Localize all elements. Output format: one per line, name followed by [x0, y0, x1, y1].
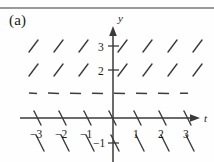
y-axis-label: y	[117, 12, 123, 24]
x-tick-label-neg1: −1	[80, 128, 92, 140]
y-tick-label-3: 3	[98, 41, 104, 53]
t-axis-label: t	[204, 112, 208, 124]
y-tick-label-2: 2	[98, 65, 104, 77]
t-axis	[20, 114, 200, 122]
equilibrium-dashed-line	[29, 93, 188, 94]
slope-field-plot: y t −3 −2 −1 1 2 3 3 2 −1	[0, 0, 214, 162]
y-tick-label-neg1: −1	[93, 137, 105, 149]
x-tick-label-1: 1	[133, 128, 139, 140]
x-tick-label-3: 3	[183, 128, 189, 140]
figure-panel: (a)	[0, 0, 214, 162]
x-tick-label-neg3: −3	[30, 128, 42, 140]
x-tick-label-2: 2	[158, 128, 164, 140]
x-tick-label-neg2: −2	[55, 128, 67, 140]
